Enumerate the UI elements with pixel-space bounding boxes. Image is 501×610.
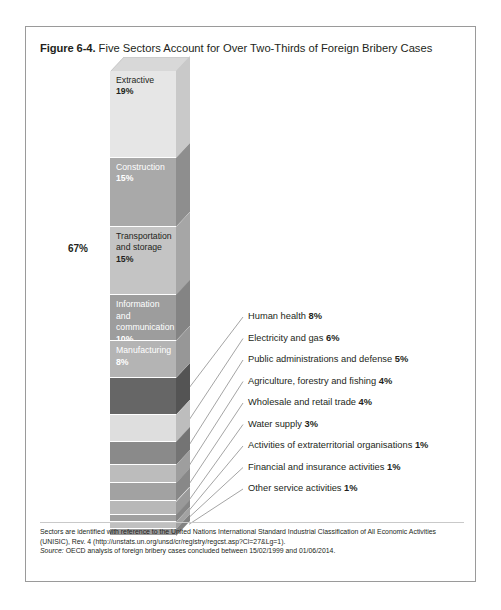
callout-label: Public administrations and defense 5%	[248, 354, 408, 365]
callout-leader-line	[189, 468, 243, 518]
callout-label-value: 3%	[305, 419, 318, 429]
callout-label-name: Agriculture, forestry and fishing	[248, 376, 379, 386]
bar-segment-value: 10%	[116, 334, 173, 342]
callout-label-name: Water supply	[248, 419, 305, 429]
bar-segment	[110, 442, 176, 465]
footnote-divider	[40, 522, 464, 523]
callout-label-name: Wholesale and retail trade	[248, 397, 359, 407]
callout-leader-line	[189, 403, 243, 484]
source-text: OECD analysis of foreign bribery cases c…	[66, 547, 336, 554]
callout-label: Agriculture, forestry and fishing 4%	[248, 376, 392, 387]
bar-segment	[110, 415, 176, 442]
bar-segment	[110, 483, 176, 501]
callout-leader-lines	[26, 27, 477, 583]
callout-label: Financial and insurance activities 1%	[248, 462, 400, 473]
bar-segment-value: 19%	[116, 86, 173, 97]
callout-label-name: Public administrations and defense	[248, 354, 395, 364]
footnote-line-2: (UNISIC), Rev. 4 (http://unstats.un.org/…	[40, 537, 464, 547]
bar-segment-label: Manufacturing8%	[116, 345, 173, 368]
bar-segment-label: Transportation and storage15%	[116, 231, 173, 265]
callout-label: Electricity and gas 6%	[248, 333, 339, 344]
callout-label-value: 1%	[387, 462, 400, 472]
footnote-line-1: Sectors are identified with reference to…	[40, 527, 464, 537]
source-label: Source:	[40, 547, 64, 554]
callout-label-name: Other service activities	[248, 483, 344, 493]
stacked-bar: Extractive19%Construction15%Transportati…	[110, 71, 176, 536]
bracket-total-label: 67%	[68, 243, 88, 254]
bar-segment-name: Extractive	[116, 75, 154, 85]
bar-segment	[110, 378, 176, 415]
bar-segment-name: Manufacturing	[116, 345, 171, 355]
figure-frame: Figure 6-4. Five Sectors Account for Ove…	[25, 26, 476, 582]
bar-segment-label: Information and communication10%	[116, 299, 173, 341]
bar-segment	[110, 465, 176, 483]
callout-label: Wholesale and retail trade 4%	[248, 397, 372, 408]
bar-segment: Extractive19%	[110, 71, 176, 158]
bar-segment-value: 8%	[116, 357, 173, 368]
callout-leader-line	[189, 382, 243, 466]
callout-leader-line	[189, 425, 243, 501]
bar-segment-name: Construction	[116, 162, 165, 172]
bar-segment	[110, 501, 176, 515]
callout-label-name: Electricity and gas	[248, 333, 326, 343]
callout-label: Other service activities 1%	[248, 483, 358, 494]
callout-leader-line	[189, 339, 243, 421]
callout-label: Activities of extraterritorial organisat…	[248, 440, 428, 451]
callout-label-value: 6%	[326, 333, 339, 343]
footnote-source: Source: OECD analysis of foreign bribery…	[40, 546, 464, 556]
callout-leader-line	[189, 489, 243, 524]
figure-footnote: Sectors are identified with reference to…	[40, 527, 464, 556]
callout-label-value: 5%	[395, 354, 408, 364]
callout-label-value: 4%	[379, 376, 392, 386]
bar-segment-value: 15%	[116, 173, 173, 184]
bar-segment: Manufacturing8%	[110, 341, 176, 378]
callout-label: Human health 8%	[248, 311, 322, 322]
bar-segment-value: 15%	[116, 254, 173, 265]
callout-label-value: 8%	[308, 311, 321, 321]
bar-segment: Transportation and storage15%	[110, 227, 176, 296]
callout-label-name: Human health	[248, 311, 308, 321]
callout-label: Water supply 3%	[248, 419, 318, 430]
bar-segment-label: Construction15%	[116, 162, 173, 185]
callout-label-value: 4%	[359, 397, 372, 407]
callout-leader-line	[189, 360, 243, 445]
callout-label-name: Financial and insurance activities	[248, 462, 387, 472]
chart-plot-area: Extractive19%Construction15%Transportati…	[26, 27, 477, 583]
bar-segment: Information and communication10%	[110, 295, 176, 341]
callout-leader-line	[189, 446, 243, 511]
callout-label-value: 1%	[415, 440, 428, 450]
callout-label-name: Activities of extraterritorial organisat…	[248, 440, 415, 450]
callout-label-value: 1%	[344, 483, 357, 493]
bar-segment-name: Transportation and storage	[116, 231, 172, 252]
bar-segment-label: Extractive19%	[116, 75, 173, 98]
callout-leader-line	[189, 317, 243, 388]
bar-segment-name: Information and communication	[116, 299, 174, 332]
bar-segment: Construction15%	[110, 158, 176, 227]
